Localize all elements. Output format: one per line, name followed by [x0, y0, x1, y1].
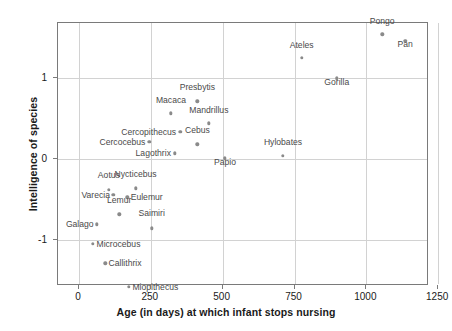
data-point-label: Galago	[66, 219, 94, 229]
y-tick-mark	[53, 239, 57, 240]
data-point-label: Pan	[397, 39, 412, 49]
scatter-plot: PongoPanAtelesGorillaPresbytisMacacaMand…	[0, 0, 452, 331]
data-point	[380, 33, 383, 36]
data-point	[207, 121, 210, 124]
x-tick-mark	[222, 285, 223, 289]
data-point-label: Cercocebus	[100, 137, 146, 147]
x-tick-mark	[437, 285, 438, 289]
y-tick-mark	[53, 77, 57, 78]
data-point	[134, 187, 137, 190]
data-point-label: Eulemur	[131, 192, 163, 202]
data-point	[118, 213, 121, 216]
y-tick-label: 0	[0, 152, 47, 163]
data-point-label: Callithrix	[109, 258, 142, 268]
data-point-label: Saimiri	[139, 208, 165, 218]
data-point	[169, 112, 172, 115]
x-tick-label: 250	[141, 291, 158, 302]
data-point-label: Pongo	[370, 16, 395, 26]
gridline-vertical	[79, 23, 80, 284]
x-tick-mark	[78, 285, 79, 289]
data-point-label: Aotus	[98, 170, 120, 180]
data-point-label: Mandrillus	[189, 105, 228, 115]
plot-area: PongoPanAtelesGorillaPresbytisMacacaMand…	[57, 22, 428, 285]
x-tick-mark	[150, 285, 151, 289]
x-tick-mark	[294, 285, 295, 289]
data-point	[150, 226, 153, 229]
x-tick-label: 750	[285, 291, 302, 302]
data-point	[173, 152, 176, 155]
x-tick-label: 1250	[426, 291, 448, 302]
y-tick-mark	[53, 158, 57, 159]
data-point-label: Gorilla	[324, 77, 349, 87]
gridline-horizontal	[58, 78, 427, 79]
data-point	[91, 242, 94, 245]
data-point-label: Microcebus	[97, 239, 141, 249]
data-point	[103, 261, 106, 264]
gridline-vertical	[295, 23, 296, 284]
x-tick-label: 500	[213, 291, 230, 302]
data-point-label: Presbytis	[180, 82, 215, 92]
gridline-vertical	[223, 23, 224, 284]
data-point-label: Nycticebus	[115, 169, 157, 179]
data-point	[196, 99, 199, 102]
data-point-label: Macaca	[156, 95, 186, 105]
data-point-label: Cercopithecus	[121, 127, 176, 137]
data-point	[281, 154, 284, 157]
data-point	[178, 130, 181, 133]
x-tick-label: 1000	[354, 291, 376, 302]
x-tick-label: 0	[75, 291, 81, 302]
data-point	[196, 143, 199, 146]
gridline-vertical	[438, 23, 439, 284]
gridline-vertical	[366, 23, 367, 284]
data-point-label: Hylobates	[264, 137, 302, 147]
x-tick-mark	[365, 285, 366, 289]
data-point-label: Varecia	[82, 190, 111, 200]
data-point-label: Lagothrix	[136, 148, 171, 158]
gridline-horizontal	[58, 159, 427, 160]
data-point-label: Cebus	[185, 125, 210, 135]
data-point	[95, 222, 98, 225]
data-point-label: Papio	[214, 157, 236, 167]
data-point-label: Ateles	[290, 40, 314, 50]
data-point-label: Lemur	[107, 195, 131, 205]
data-point	[300, 56, 303, 59]
x-axis-title: Age (in days) at which infant stops nurs…	[0, 306, 452, 318]
data-point	[127, 285, 130, 288]
y-tick-label: 1	[0, 71, 47, 82]
y-tick-label: -1	[0, 234, 47, 245]
